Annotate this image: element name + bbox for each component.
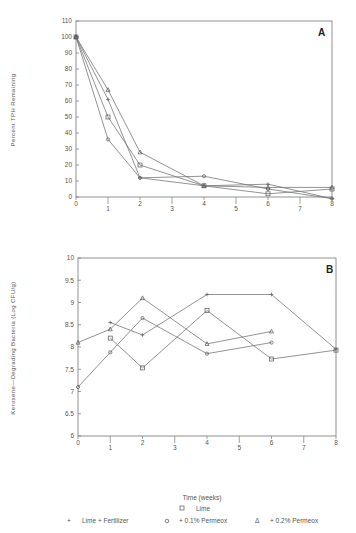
legend-label: + 0.1% Permeox bbox=[179, 517, 228, 524]
x-tick-label: 5 bbox=[234, 205, 238, 212]
y-tick-label: 20 bbox=[65, 161, 73, 168]
x-tick-label: 7 bbox=[302, 444, 306, 451]
y-tick-label: 6.5 bbox=[65, 410, 74, 417]
y-tick-label: 9 bbox=[70, 299, 74, 306]
y-tick-label: 70 bbox=[65, 81, 73, 88]
x-tick-label: 3 bbox=[170, 205, 174, 212]
chart-panel-b: 66.577.588.599.510 012345678 B Kerosene—… bbox=[10, 254, 338, 502]
panel-label-b: B bbox=[326, 264, 333, 275]
legend-label: Lime + Fertilizer bbox=[82, 517, 129, 524]
x-tick-label: 0 bbox=[74, 200, 78, 207]
x-tick-label: 0 bbox=[76, 439, 80, 446]
x-axis-ticks-b: 012345678 bbox=[76, 436, 338, 451]
y-tick-label: 80 bbox=[65, 65, 73, 72]
y-tick-label: 40 bbox=[65, 129, 73, 136]
x-tick-label: 2 bbox=[141, 439, 145, 446]
plot-frame-b bbox=[78, 258, 336, 436]
x-tick-label: 8 bbox=[330, 200, 334, 207]
x-tick-label: 5 bbox=[237, 444, 241, 451]
y-tick-label: 0 bbox=[68, 193, 72, 200]
x-tick-label: 4 bbox=[202, 200, 206, 207]
y-tick-label: 8 bbox=[70, 343, 74, 350]
legend-item-permeox-01: + 0.1% Permeox bbox=[165, 517, 228, 524]
y-tick-label: 100 bbox=[61, 33, 72, 40]
legend-label: + 0.2% Permeox bbox=[270, 517, 319, 524]
y-tick-label: 90 bbox=[65, 49, 73, 56]
plus-marker-icon bbox=[108, 321, 112, 325]
x-tick-label: 1 bbox=[106, 205, 110, 212]
y-axis-title-a: Percent TPH Remaining bbox=[10, 74, 16, 147]
y-tick-label: 6 bbox=[70, 432, 74, 439]
x-axis-ticks-a: 012345678 bbox=[74, 197, 334, 212]
x-tick-label: 6 bbox=[270, 439, 274, 446]
y-tick-label: 7.5 bbox=[65, 366, 74, 373]
legend: Lime + Lime + Fertilizer + 0.1% Permeox … bbox=[67, 505, 319, 524]
series-group-a bbox=[74, 35, 334, 201]
y-tick-label: 9.5 bbox=[65, 277, 74, 284]
series-line bbox=[78, 318, 272, 387]
square-marker-icon bbox=[180, 506, 184, 510]
plus-marker-icon bbox=[106, 98, 110, 102]
y-axis-title-b: Kerosene—Degrading Bacteria (Log CFU/g) bbox=[10, 281, 16, 414]
y-axis-ticks-b: 66.577.588.599.510 bbox=[65, 254, 81, 439]
y-tick-label: 10 bbox=[67, 254, 75, 261]
x-tick-label: 3 bbox=[173, 444, 177, 451]
x-tick-label: 1 bbox=[108, 444, 112, 451]
triangle-marker-icon bbox=[270, 329, 274, 333]
y-tick-label: 7 bbox=[70, 388, 74, 395]
series-line bbox=[76, 37, 332, 187]
x-axis-title-b: Time (weeks) bbox=[183, 494, 222, 502]
y-tick-label: 8.5 bbox=[65, 321, 74, 328]
panel-label-a: A bbox=[318, 27, 325, 38]
plot-frame-a bbox=[76, 21, 332, 197]
y-tick-label: 110 bbox=[62, 17, 73, 24]
y-tick-label: 10 bbox=[65, 177, 73, 184]
series-group-b bbox=[76, 293, 338, 389]
chart-panel-a: 0102030405060708090100110 012345678 A Pe… bbox=[10, 17, 334, 212]
x-tick-label: 7 bbox=[298, 205, 302, 212]
y-tick-label: 50 bbox=[65, 113, 73, 120]
legend-item-lime-fertilizer: + Lime + Fertilizer bbox=[67, 517, 129, 524]
x-tick-label: 4 bbox=[205, 439, 209, 446]
x-tick-label: 6 bbox=[266, 200, 270, 207]
y-tick-label: 60 bbox=[65, 97, 73, 104]
y-tick-label: 30 bbox=[65, 145, 73, 152]
triangle-marker-icon: Δ bbox=[255, 517, 260, 524]
plus-marker-icon: + bbox=[67, 517, 71, 524]
figure: 0102030405060708090100110 012345678 A Pe… bbox=[0, 0, 356, 533]
series-line bbox=[78, 298, 272, 344]
legend-item-permeox-02: Δ + 0.2% Permeox bbox=[255, 517, 319, 524]
x-tick-label: 2 bbox=[138, 200, 142, 207]
legend-item-lime: Lime bbox=[180, 505, 210, 512]
legend-label: Lime bbox=[196, 505, 210, 512]
x-tick-label: 8 bbox=[334, 439, 338, 446]
circle-marker-icon bbox=[165, 519, 169, 523]
